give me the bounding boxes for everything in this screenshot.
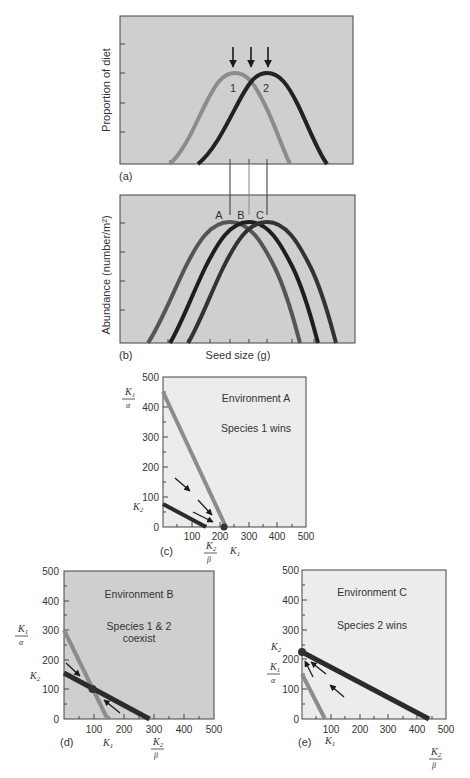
panel-d-y-label-top: K1 α <box>15 623 28 647</box>
svg-text:500: 500 <box>282 565 299 576</box>
svg-text:500: 500 <box>298 531 315 542</box>
panel-c-outcome: Species 1 wins <box>221 422 291 434</box>
panel-b-label: (b) <box>119 349 132 361</box>
svg-text:500: 500 <box>206 724 223 735</box>
svg-text:α: α <box>271 676 276 685</box>
svg-text:300: 300 <box>42 625 59 636</box>
curve-label-b: B <box>237 209 244 221</box>
svg-text:K2: K2 <box>152 736 164 749</box>
svg-text:0: 0 <box>153 522 159 533</box>
panel-d-outcome-line2: coexist <box>123 632 156 644</box>
svg-text:400: 400 <box>176 724 193 735</box>
panel-e-x-label-left: K1 <box>324 735 335 748</box>
panel-c-y-tick-labels: 0 100 200 300 400 500 <box>142 372 159 533</box>
panel-d-x-tick-labels: 100 200 300 400 500 <box>86 724 223 735</box>
panel-d-y-label-bottom: K2 <box>29 670 41 683</box>
svg-text:100: 100 <box>86 724 103 735</box>
svg-text:200: 200 <box>212 531 229 542</box>
svg-text:β: β <box>206 555 211 564</box>
svg-text:500: 500 <box>42 566 59 577</box>
svg-text:200: 200 <box>282 654 299 665</box>
panel-c-x-label-left: K2 β <box>204 540 217 564</box>
svg-text:K1: K1 <box>269 661 280 674</box>
panel-b-xlabel: Seed size (g) <box>206 349 271 361</box>
svg-text:100: 100 <box>142 492 159 503</box>
panel-c-label: (c) <box>160 545 173 557</box>
panel-e-title: Environment C <box>337 586 407 598</box>
svg-text:200: 200 <box>116 724 133 735</box>
panel-e-x-tick-labels: 100 200 300 400 500 <box>323 724 455 735</box>
svg-text:200: 200 <box>142 462 159 473</box>
panel-c-x-label-right: K1 <box>229 545 240 558</box>
panel-d-title: Environment B <box>105 588 174 600</box>
svg-text:400: 400 <box>409 724 426 735</box>
svg-text:300: 300 <box>282 625 299 636</box>
panel-c-x-tick-labels: 100 200 300 400 500 <box>184 531 315 542</box>
svg-text:K2: K2 <box>430 746 442 759</box>
svg-text:400: 400 <box>282 595 299 606</box>
svg-text:500: 500 <box>438 724 455 735</box>
svg-text:300: 300 <box>241 531 258 542</box>
svg-text:400: 400 <box>269 531 286 542</box>
panel-e-outcome: Species 2 wins <box>337 619 407 631</box>
panel-d-y-tick-labels: 0 100 200 300 400 500 <box>42 566 59 725</box>
panel-d-x-label-right: K2 β <box>151 736 164 760</box>
svg-text:K1: K1 <box>124 386 135 399</box>
panel-b: A B C Abundance (number/m²) Seed size (g… <box>100 195 355 361</box>
svg-text:400: 400 <box>142 402 159 413</box>
svg-text:300: 300 <box>142 432 159 443</box>
panel-a-ylabel: Proportion of diet <box>100 48 112 132</box>
svg-text:300: 300 <box>146 724 163 735</box>
svg-text:100: 100 <box>323 724 340 735</box>
curve-1-label: 1 <box>230 82 236 94</box>
svg-text:500: 500 <box>142 372 159 383</box>
svg-text:K1: K1 <box>17 623 28 636</box>
panel-e-y-tick-labels: 0 100 200 300 400 500 <box>282 565 299 725</box>
panel-e-label: (e) <box>298 736 311 748</box>
svg-text:0: 0 <box>293 714 299 725</box>
svg-text:400: 400 <box>42 596 59 607</box>
curve-2-label: 2 <box>263 82 269 94</box>
curve-label-a: A <box>215 209 223 221</box>
svg-text:100: 100 <box>184 531 201 542</box>
svg-text:0: 0 <box>53 714 59 725</box>
svg-text:100: 100 <box>42 684 59 695</box>
panel-a-label: (a) <box>119 170 132 182</box>
panel-c-title: Environment A <box>222 392 290 404</box>
curve-label-c: C <box>256 209 264 221</box>
svg-text:200: 200 <box>352 724 369 735</box>
svg-text:β: β <box>431 761 436 770</box>
equilibrium-point <box>221 524 228 531</box>
equilibrium-point <box>298 648 306 656</box>
equilibrium-point <box>89 685 97 693</box>
svg-text:300: 300 <box>380 724 397 735</box>
panel-d-label: (d) <box>60 736 73 748</box>
svg-text:α: α <box>126 401 131 410</box>
svg-text:200: 200 <box>42 655 59 666</box>
svg-text:α: α <box>19 638 24 647</box>
panel-e-x-label-right: K2 β <box>429 746 442 770</box>
panel-c: 0 100 200 300 400 500 100 200 300 400 50… <box>122 372 315 564</box>
panel-d: 0 100 200 300 400 500 100 200 300 400 50… <box>15 566 223 760</box>
panel-e-y-label-top: K2 <box>270 641 282 654</box>
panel-c-y-label-top: K1 α <box>122 386 135 410</box>
svg-text:100: 100 <box>282 684 299 695</box>
panel-d-outcome-line1: Species 1 & 2 <box>107 620 172 632</box>
svg-text:β: β <box>153 751 158 760</box>
panel-b-ylabel: Abundance (number/m²) <box>100 215 112 334</box>
panel-e-y-label-bottom: K1 α <box>267 661 280 685</box>
panel-a-plot-area <box>120 16 353 164</box>
panel-e: 0 100 200 300 400 500 100 200 300 400 50… <box>267 565 455 770</box>
panel-d-x-label-left: K1 <box>102 737 113 750</box>
panel-a: 1 2 Proportion of diet (a) <box>100 16 353 182</box>
